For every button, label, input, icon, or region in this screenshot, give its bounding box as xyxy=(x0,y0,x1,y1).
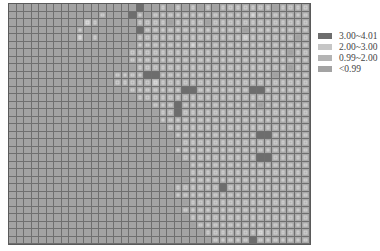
heatmap-cell xyxy=(62,12,70,20)
heatmap-cell xyxy=(84,222,92,230)
heatmap-cell xyxy=(24,199,32,207)
heatmap-cell xyxy=(84,57,92,65)
heatmap-cell xyxy=(235,12,243,20)
legend-label: <0.99 xyxy=(339,64,361,74)
heatmap-cell xyxy=(220,139,228,147)
heatmap-cell xyxy=(220,162,228,170)
heatmap-cell xyxy=(129,199,137,207)
heatmap-cell xyxy=(182,42,190,50)
heatmap-cell xyxy=(54,162,62,170)
heatmap-cell xyxy=(205,109,213,117)
heatmap-cell xyxy=(107,229,115,237)
heatmap-cell xyxy=(122,4,130,12)
heatmap-cell xyxy=(250,4,258,12)
heatmap-cell xyxy=(39,169,47,177)
heatmap-cell xyxy=(272,72,280,80)
heatmap-cell xyxy=(62,162,70,170)
heatmap-cell xyxy=(114,64,122,72)
heatmap-cell xyxy=(99,139,107,147)
heatmap-cell xyxy=(160,132,168,140)
heatmap-cell xyxy=(99,79,107,87)
heatmap-cell xyxy=(197,102,205,110)
heatmap-cell xyxy=(84,12,92,20)
heatmap-cell xyxy=(295,87,303,95)
heatmap-cell xyxy=(302,4,310,12)
heatmap-cell xyxy=(144,117,152,125)
heatmap-cell xyxy=(32,102,40,110)
heatmap-cell xyxy=(152,34,160,42)
heatmap-cell xyxy=(114,177,122,185)
heatmap-cell xyxy=(167,72,175,80)
heatmap-cell xyxy=(92,139,100,147)
heatmap-cell xyxy=(302,79,310,87)
heatmap-cell xyxy=(167,27,175,35)
heatmap-cell xyxy=(54,49,62,57)
heatmap-cell xyxy=(122,237,130,245)
heatmap-cell xyxy=(54,222,62,230)
heatmap-cell xyxy=(39,139,47,147)
heatmap-cell xyxy=(190,154,198,162)
heatmap-cell xyxy=(295,132,303,140)
heatmap-cell xyxy=(84,124,92,132)
heatmap-cell xyxy=(69,169,77,177)
heatmap-cell xyxy=(114,207,122,215)
heatmap-cell xyxy=(295,207,303,215)
heatmap-cell xyxy=(77,184,85,192)
heatmap-cell xyxy=(9,19,17,27)
heatmap-cell xyxy=(272,27,280,35)
heatmap-cell xyxy=(24,4,32,12)
heatmap-cell xyxy=(302,132,310,140)
heatmap-cell xyxy=(47,42,55,50)
heatmap-cell xyxy=(280,79,288,87)
heatmap-cell xyxy=(152,64,160,72)
heatmap-cell xyxy=(122,184,130,192)
heatmap-cell xyxy=(77,124,85,132)
heatmap-cell xyxy=(302,42,310,50)
heatmap-cell xyxy=(69,147,77,155)
heatmap-cell xyxy=(175,199,183,207)
heatmap-cell xyxy=(212,154,220,162)
heatmap-cell xyxy=(265,117,273,125)
heatmap-cell xyxy=(137,214,145,222)
heatmap-cell xyxy=(272,57,280,65)
heatmap-cell xyxy=(62,229,70,237)
heatmap-cell xyxy=(302,57,310,65)
heatmap-cell xyxy=(122,12,130,20)
heatmap-cell xyxy=(197,162,205,170)
heatmap-cell xyxy=(242,177,250,185)
heatmap-cell xyxy=(212,34,220,42)
heatmap-cell xyxy=(205,184,213,192)
heatmap-cell xyxy=(54,184,62,192)
heatmap-cell xyxy=(265,229,273,237)
heatmap-cell xyxy=(47,207,55,215)
heatmap-cell xyxy=(190,207,198,215)
heatmap-cell xyxy=(205,124,213,132)
heatmap-cell xyxy=(69,4,77,12)
heatmap-cell xyxy=(205,57,213,65)
heatmap-cell xyxy=(77,207,85,215)
heatmap-cell xyxy=(265,94,273,102)
heatmap-cell xyxy=(69,124,77,132)
heatmap-cell xyxy=(235,229,243,237)
heatmap-cell xyxy=(250,139,258,147)
heatmap-cell xyxy=(242,207,250,215)
heatmap-cell xyxy=(197,57,205,65)
heatmap-cell xyxy=(77,162,85,170)
heatmap-cell xyxy=(17,184,25,192)
heatmap-cell xyxy=(227,12,235,20)
heatmap-cell xyxy=(137,57,145,65)
heatmap-cell xyxy=(257,109,265,117)
heatmap-cell xyxy=(265,64,273,72)
heatmap-cell xyxy=(280,177,288,185)
heatmap-cell xyxy=(182,4,190,12)
heatmap-cell xyxy=(107,237,115,245)
heatmap-cell xyxy=(24,34,32,42)
heatmap-cell xyxy=(17,177,25,185)
heatmap-cell xyxy=(212,42,220,50)
heatmap-cell xyxy=(257,184,265,192)
heatmap-cell xyxy=(54,177,62,185)
heatmap-cell xyxy=(220,12,228,20)
heatmap-cell xyxy=(144,64,152,72)
heatmap-cell xyxy=(32,49,40,57)
heatmap-cell xyxy=(39,199,47,207)
